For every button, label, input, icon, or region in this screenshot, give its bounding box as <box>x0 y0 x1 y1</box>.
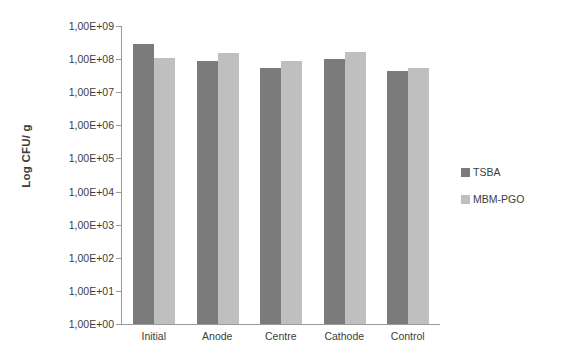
y-axis-title: Log CFU/ g <box>20 111 32 201</box>
chart-legend: TSBAMBM-PGO <box>461 166 524 220</box>
y-axis-tick-label: 1,00E+09 <box>46 21 114 32</box>
y-axis-tick-mark <box>116 125 121 126</box>
x-axis-tick-label: Centre <box>249 330 313 342</box>
y-axis-tick-label: 1,00E+08 <box>46 54 114 65</box>
bar[interactable] <box>324 59 345 324</box>
y-axis-tick-mark <box>116 26 121 27</box>
bar[interactable] <box>154 58 175 324</box>
bar[interactable] <box>260 68 281 324</box>
y-axis-tick-label: 1,00E+07 <box>46 87 114 98</box>
bar-group <box>186 26 250 324</box>
y-axis-tick-label: 1,00E+03 <box>46 220 114 231</box>
y-axis-tick-label: 1,00E+00 <box>46 319 114 330</box>
x-axis-tick-label: Anode <box>186 330 250 342</box>
plot-area <box>122 26 440 324</box>
bar-group <box>122 26 186 324</box>
legend-entry[interactable]: TSBA <box>461 166 524 178</box>
legend-label: TSBA <box>473 166 500 178</box>
legend-entry[interactable]: MBM-PGO <box>461 193 524 205</box>
y-axis-tick-label: 1,00E+01 <box>46 286 114 297</box>
bar[interactable] <box>133 44 154 324</box>
bar[interactable] <box>387 71 408 324</box>
legend-swatch-icon <box>461 195 470 204</box>
bar-chart: Log CFU/ g 1,00E+091,00E+081,00E+071,00E… <box>0 0 571 360</box>
x-axis-tick-label: Initial <box>122 330 186 342</box>
legend-label: MBM-PGO <box>473 193 524 205</box>
y-axis-tick-label: 1,00E+02 <box>46 253 114 264</box>
x-axis-tick-label: Cathode <box>313 330 377 342</box>
bar[interactable] <box>197 61 218 324</box>
y-axis-tick-mark <box>116 92 121 93</box>
bar[interactable] <box>408 68 429 324</box>
y-axis-tick-label: 1,00E+05 <box>46 153 114 164</box>
y-axis-tick-mark <box>116 158 121 159</box>
y-axis-tick-mark <box>116 225 121 226</box>
y-axis-tick-mark <box>116 324 121 325</box>
y-axis-tick-labels: 1,00E+091,00E+081,00E+071,00E+061,00E+05… <box>46 20 114 331</box>
x-axis-tick-label: Control <box>376 330 440 342</box>
y-axis-tick-mark <box>116 291 121 292</box>
bar-group <box>249 26 313 324</box>
y-axis-tick-label: 1,00E+04 <box>46 187 114 198</box>
bar[interactable] <box>218 53 239 324</box>
y-axis-tick-mark <box>116 59 121 60</box>
legend-swatch-icon <box>461 168 470 177</box>
y-axis-tick-mark <box>116 192 121 193</box>
y-axis-tick-mark <box>116 258 121 259</box>
x-axis-tick-labels: InitialAnodeCentreCathodeControl <box>122 330 440 350</box>
bar[interactable] <box>281 61 302 324</box>
bar-group <box>376 26 440 324</box>
bar[interactable] <box>345 52 366 325</box>
bar-group <box>313 26 377 324</box>
x-axis-line <box>121 324 440 325</box>
y-axis-tick-label: 1,00E+06 <box>46 120 114 131</box>
